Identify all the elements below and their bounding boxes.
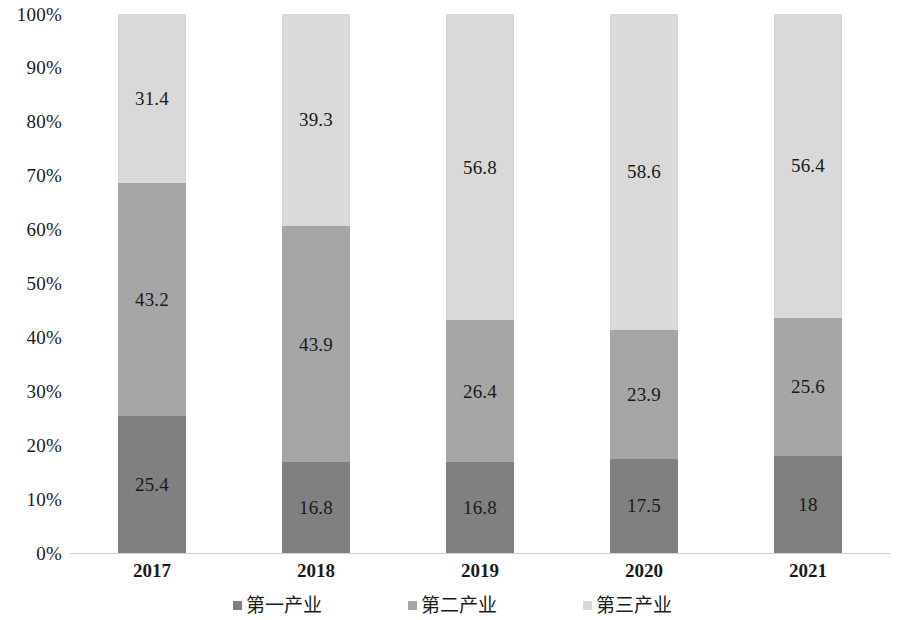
bar-segment-value-label: 39.3 <box>299 110 333 129</box>
y-axis-tick-label: 70% <box>0 166 62 185</box>
y-axis: 0%10%20%30%40%50%60%70%80%90%100% <box>0 0 62 553</box>
y-axis-tick-label: 40% <box>0 328 62 347</box>
bar-segment[interactable]: 26.4 <box>446 320 514 462</box>
bar-segment-value-label: 56.4 <box>791 156 825 175</box>
bar-segment-value-label: 16.8 <box>463 498 497 517</box>
bar-segment[interactable]: 58.6 <box>610 14 678 330</box>
bar-segment[interactable]: 25.6 <box>774 318 842 456</box>
y-axis-tick-label: 100% <box>0 5 62 24</box>
x-axis-tick-label: 2020 <box>584 560 704 582</box>
y-axis-tick-label: 50% <box>0 274 62 293</box>
bar-segment-value-label: 16.8 <box>299 498 333 517</box>
legend-item[interactable]: 第一产业 <box>233 595 322 616</box>
x-axis-line <box>70 553 890 554</box>
legend-item-label: 第三产业 <box>596 595 672 616</box>
plot-area: 31.443.225.439.343.916.856.826.416.858.6… <box>70 14 890 553</box>
y-axis-tick-label: 60% <box>0 220 62 239</box>
bar-group[interactable]: 58.623.917.5 <box>610 14 678 553</box>
bar-segment[interactable]: 18 <box>774 456 842 553</box>
bar-group[interactable]: 56.425.618 <box>774 14 842 553</box>
legend-item[interactable]: 第二产业 <box>408 595 497 616</box>
bar-segment-value-label: 31.4 <box>135 89 169 108</box>
y-axis-tick-label: 10% <box>0 490 62 509</box>
bar-stack: 39.343.916.8 <box>282 14 350 553</box>
bar-segment[interactable]: 23.9 <box>610 330 678 459</box>
bar-stack: 56.826.416.8 <box>446 14 514 553</box>
y-axis-tick-label: 90% <box>0 58 62 77</box>
bar-segment[interactable]: 56.4 <box>774 14 842 318</box>
y-axis-tick-label: 80% <box>0 112 62 131</box>
y-axis-tick-label: 20% <box>0 436 62 455</box>
bar-segment-value-label: 43.2 <box>135 290 169 309</box>
y-axis-tick-label: 30% <box>0 382 62 401</box>
bar-stack: 31.443.225.4 <box>118 14 186 553</box>
bar-segment-value-label: 58.6 <box>627 162 661 181</box>
bar-segment[interactable]: 25.4 <box>118 416 186 553</box>
bar-group[interactable]: 31.443.225.4 <box>118 14 186 553</box>
legend-swatch-icon <box>583 601 592 610</box>
bar-segment[interactable]: 43.9 <box>282 226 350 463</box>
bar-series-container: 31.443.225.439.343.916.856.826.416.858.6… <box>70 14 890 553</box>
x-axis: 20172018201920202021 <box>0 560 904 586</box>
legend-swatch-icon <box>408 601 417 610</box>
legend-item[interactable]: 第三产业 <box>583 595 672 616</box>
bar-segment[interactable]: 16.8 <box>282 462 350 553</box>
bar-segment[interactable]: 39.3 <box>282 14 350 226</box>
bar-segment-value-label: 43.9 <box>299 335 333 354</box>
bar-segment-value-label: 25.6 <box>791 377 825 396</box>
stacked-bar-chart: 0%10%20%30%40%50%60%70%80%90%100% 31.443… <box>0 0 904 620</box>
bar-segment[interactable]: 43.2 <box>118 183 186 416</box>
bar-group[interactable]: 56.826.416.8 <box>446 14 514 553</box>
bar-segment[interactable]: 17.5 <box>610 459 678 553</box>
x-axis-tick-label: 2017 <box>92 560 212 582</box>
bar-group[interactable]: 39.343.916.8 <box>282 14 350 553</box>
bar-segment-value-label: 18 <box>798 495 817 514</box>
legend-item-label: 第一产业 <box>246 595 322 616</box>
x-axis-tick-label: 2018 <box>256 560 376 582</box>
chart-legend: 第一产业第二产业第三产业 <box>0 592 904 618</box>
bar-segment-value-label: 56.8 <box>463 158 497 177</box>
x-axis-tick-label: 2021 <box>748 560 868 582</box>
bar-segment[interactable]: 16.8 <box>446 462 514 553</box>
bar-segment[interactable]: 31.4 <box>118 14 186 183</box>
bar-segment[interactable]: 56.8 <box>446 14 514 320</box>
legend-item-label: 第二产业 <box>421 595 497 616</box>
bar-segment-value-label: 23.9 <box>627 385 661 404</box>
x-axis-tick-label: 2019 <box>420 560 540 582</box>
bar-segment-value-label: 26.4 <box>463 382 497 401</box>
bar-stack: 58.623.917.5 <box>610 14 678 553</box>
bar-segment-value-label: 25.4 <box>135 475 169 494</box>
legend-swatch-icon <box>233 601 242 610</box>
bar-segment-value-label: 17.5 <box>627 496 661 515</box>
bar-stack: 56.425.618 <box>774 14 842 553</box>
